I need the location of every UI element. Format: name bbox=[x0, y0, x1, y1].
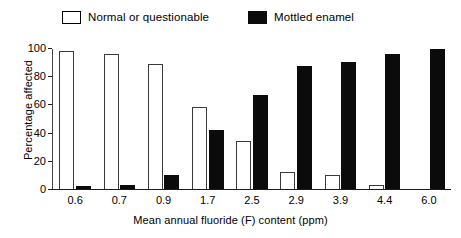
x-axis-tick-1-7: 1.7 bbox=[186, 193, 230, 207]
x-axis-tick-2-9: 2.9 bbox=[274, 193, 318, 207]
bar-2-9-normal bbox=[280, 172, 295, 189]
bar-2-5-mottled bbox=[253, 95, 268, 189]
bar-4-4-normal bbox=[369, 185, 384, 189]
x-axis-title: Mean annual fluoride (F) content (ppm) bbox=[0, 214, 461, 226]
x-axis-tick-3-9: 3.9 bbox=[318, 193, 362, 207]
y-axis-tick-labels: 020406080100 bbox=[20, 38, 46, 190]
bar-0-7-mottled bbox=[120, 185, 135, 189]
bar-1-7-normal bbox=[192, 107, 207, 189]
bar-0-7-normal bbox=[104, 54, 119, 189]
legend-label-mottled-enamel: Mottled enamel bbox=[274, 11, 354, 24]
bar-series-container bbox=[53, 38, 451, 190]
fluoride-mottled-enamel-bar-chart: Normal or questionable Mottled enamel Pe… bbox=[0, 0, 461, 238]
bar-0-9-normal bbox=[148, 64, 163, 189]
plot-area: Percentage affected 020406080100 0.60.70… bbox=[0, 38, 461, 238]
chart-legend: Normal or questionable Mottled enamel bbox=[0, 6, 461, 30]
x-axis-tick-labels: 0.60.70.91.72.52.93.94.46.0 bbox=[53, 193, 451, 209]
legend-item-mottled-enamel: Mottled enamel bbox=[248, 8, 354, 26]
legend-label-normal-or-questionable: Normal or questionable bbox=[88, 11, 209, 24]
bar-0-9-mottled bbox=[164, 175, 179, 189]
bar-0-6-mottled bbox=[76, 186, 91, 189]
bar-3-9-mottled bbox=[341, 62, 356, 189]
y-axis-tick-40: 40 bbox=[34, 127, 46, 139]
filled-square-swatch-icon bbox=[248, 11, 267, 24]
bar-3-9-normal bbox=[325, 175, 340, 189]
x-axis-tick-6-0: 6.0 bbox=[407, 193, 451, 207]
y-axis-tick-60: 60 bbox=[34, 98, 46, 110]
bar-0-6-normal bbox=[59, 51, 74, 189]
bar-6-0-mottled bbox=[430, 49, 445, 189]
y-axis-tick-100: 100 bbox=[28, 42, 46, 54]
x-axis-tick-0-9: 0.9 bbox=[141, 193, 185, 207]
legend-item-normal-or-questionable: Normal or questionable bbox=[62, 8, 209, 26]
bar-2-9-mottled bbox=[297, 66, 312, 189]
bar-4-4-mottled bbox=[385, 54, 400, 189]
x-axis-tick-0-7: 0.7 bbox=[97, 193, 141, 207]
bar-2-5-normal bbox=[236, 141, 251, 189]
x-axis-tick-0-6: 0.6 bbox=[53, 193, 97, 207]
y-axis-tick-80: 80 bbox=[34, 70, 46, 82]
x-axis-tick-4-4: 4.4 bbox=[363, 193, 407, 207]
y-axis-tick-0: 0 bbox=[40, 183, 46, 195]
y-axis-tick-20: 20 bbox=[34, 155, 46, 167]
open-square-swatch-icon bbox=[62, 11, 81, 24]
bar-1-7-mottled bbox=[209, 130, 224, 189]
x-axis-tick-2-5: 2.5 bbox=[230, 193, 274, 207]
